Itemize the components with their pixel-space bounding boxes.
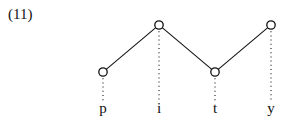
tone-link-t-y bbox=[218, 28, 268, 70]
segment-labels: pity bbox=[99, 100, 275, 116]
segment-label-t: t bbox=[213, 100, 218, 116]
tone-node-t bbox=[211, 68, 219, 76]
tone-node-i bbox=[155, 21, 163, 29]
segment-label-p: p bbox=[99, 100, 107, 116]
segment-label-i: i bbox=[157, 100, 161, 116]
tone-node-p bbox=[99, 68, 107, 76]
segment-label-y: y bbox=[267, 100, 275, 116]
tone-node-y bbox=[267, 21, 275, 29]
tone-diagram: pity bbox=[0, 0, 281, 123]
tone-link-p-i bbox=[106, 28, 156, 70]
tone-link-i-t bbox=[162, 28, 212, 70]
tone-links bbox=[106, 28, 268, 70]
association-lines bbox=[103, 31, 271, 101]
